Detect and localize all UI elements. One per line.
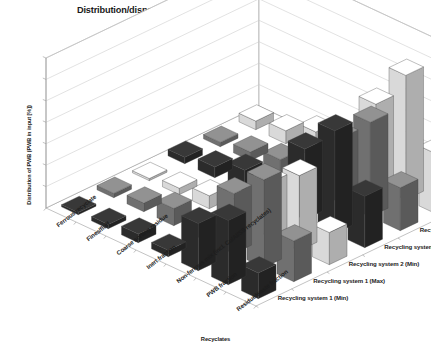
legend-label-0: Recycling system 1 (Min)	[278, 294, 348, 301]
legend-label-2: Recycling system 2 (Min)	[349, 260, 419, 267]
chart-3d-bar: Distribution/dispersion PWBs over the va…	[0, 0, 431, 356]
plot-area	[0, 0, 431, 356]
bar-5-3	[318, 114, 353, 233]
bar-6-3	[348, 180, 383, 248]
x-axis-title: Recyclates	[0, 336, 431, 342]
y-axis-title: Distribution of PWB (PWB in input [%])	[26, 80, 32, 230]
bar-6-4	[383, 171, 418, 230]
legend-label-4: Recycling system 3 (Min)	[420, 226, 431, 233]
bar-6-2	[312, 216, 347, 264]
legend-label-1: Recycling system 1 (Max)	[313, 277, 385, 284]
legend-label-3: Recycling system 2 (Max)	[384, 243, 431, 250]
